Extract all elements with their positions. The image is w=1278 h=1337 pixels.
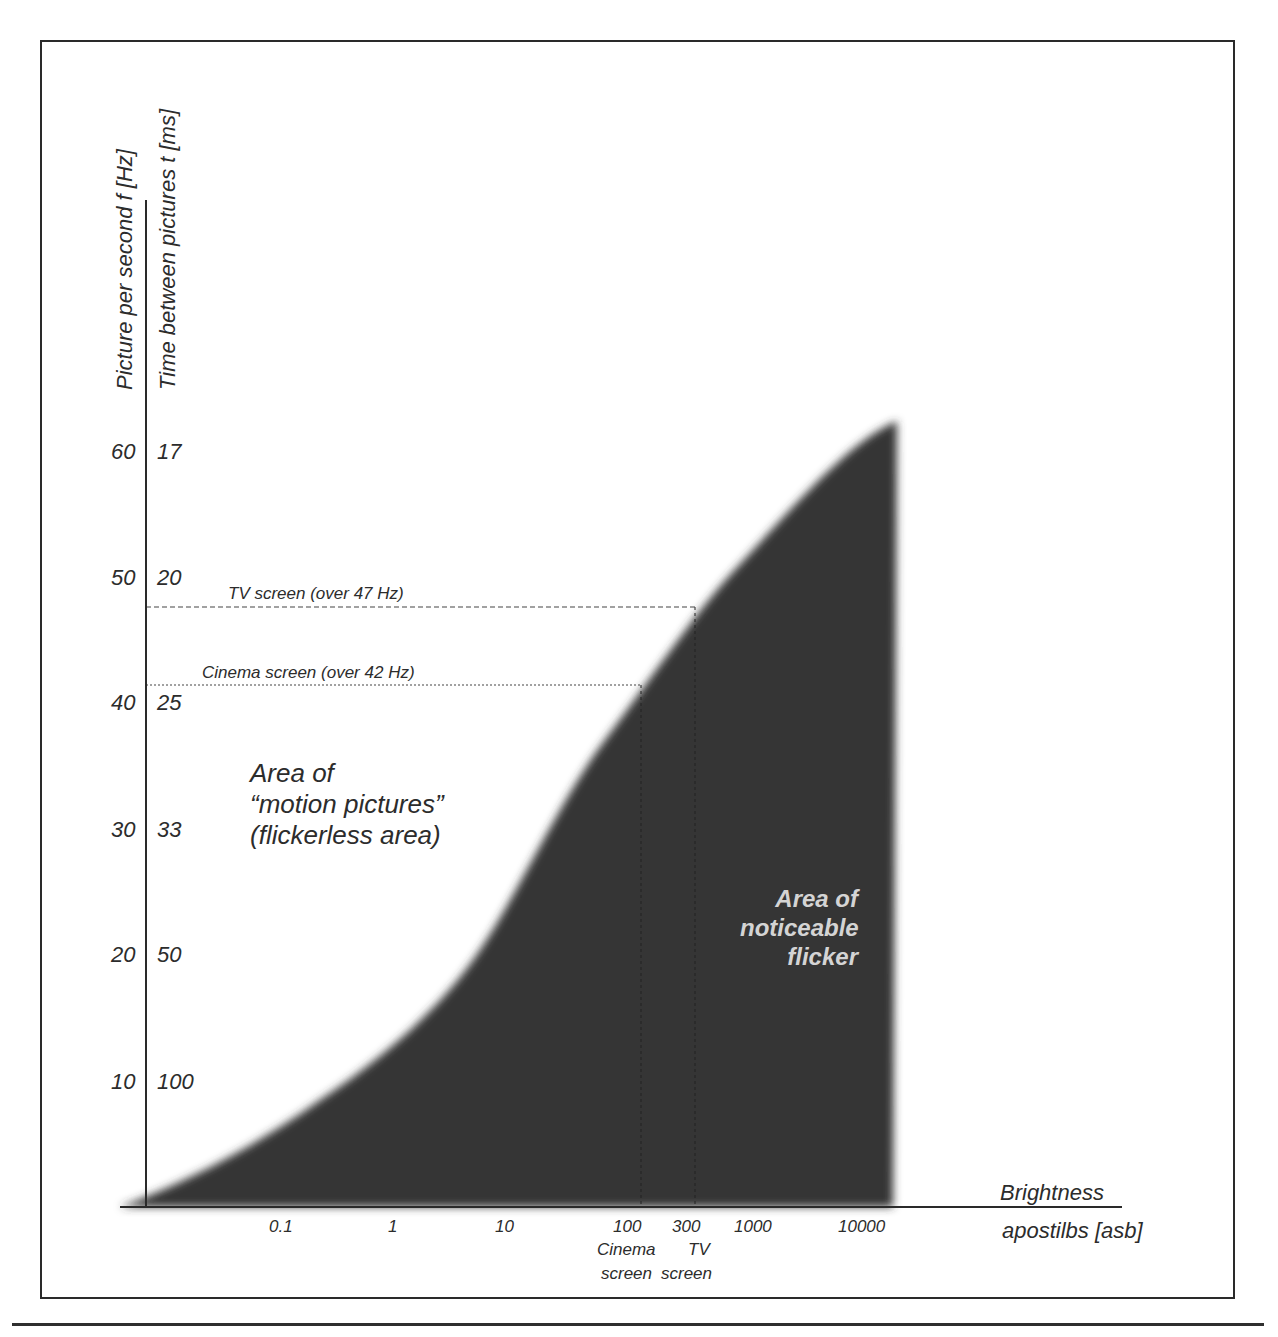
y-tick-hz: 20	[111, 942, 135, 968]
y-tick-ms: 17	[157, 439, 181, 465]
y-tick-ms: 25	[157, 690, 181, 716]
x-tick: 1	[388, 1217, 397, 1237]
y-axis-label-ms: Time between pictures t [ms]	[155, 109, 181, 390]
x-tick: 0.1	[269, 1217, 293, 1237]
y-tick-hz: 50	[111, 565, 135, 591]
y-tick-ms: 33	[157, 817, 181, 843]
y-tick-hz: 30	[111, 817, 135, 843]
y-tick-hz: 40	[111, 690, 135, 716]
x-tick: 100	[613, 1217, 641, 1237]
y-tick-hz: 10	[111, 1069, 135, 1095]
x-tick: 300	[672, 1217, 700, 1237]
x-tick: 10000	[838, 1217, 885, 1237]
y-tick-ms: 20	[157, 565, 181, 591]
cinema-line-annotation: Cinema screen (over 42 Hz)	[202, 663, 415, 683]
x-axis-title: Brightness	[1000, 1180, 1104, 1206]
y-tick-ms: 50	[157, 942, 181, 968]
flicker-region-label: Area of noticeable flicker	[740, 884, 858, 971]
y-tick-ms: 100	[157, 1069, 194, 1095]
x-tick: 10	[495, 1217, 514, 1237]
y-tick-hz: 60	[111, 439, 135, 465]
y-axis-label-hz: Picture per second f [Hz]	[112, 149, 138, 390]
x-note-tv: TV	[688, 1240, 710, 1260]
x-note-cinema: Cinema	[597, 1240, 656, 1260]
x-axis-unit: apostilbs [asb]	[1002, 1218, 1143, 1244]
chart-plot	[0, 0, 1278, 1337]
flicker-area	[120, 421, 897, 1207]
x-note-cinema: screen	[601, 1264, 652, 1284]
flickerless-region-label: Area of “motion pictures” (flickerless a…	[250, 758, 444, 851]
tv-line-annotation: TV screen (over 47 Hz)	[228, 584, 404, 604]
x-note-tv: screen	[661, 1264, 712, 1284]
x-tick: 1000	[734, 1217, 772, 1237]
